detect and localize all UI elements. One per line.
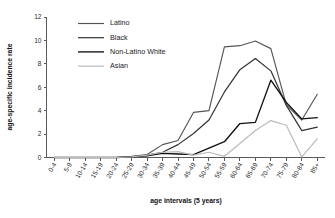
x-tick-label: 55-59 [213, 161, 228, 179]
series-lines [54, 41, 317, 158]
x-tick-label: 35-39 [151, 161, 166, 179]
y-tick-group: 024681012 [34, 13, 46, 161]
x-tick-label: 70-74 [259, 161, 274, 179]
legend-label-latino: Latino [110, 18, 130, 27]
x-tick-label: 75-79 [275, 161, 290, 179]
y-tick-label: 6 [38, 84, 42, 91]
legend-label-asian: Asian [110, 61, 128, 70]
y-tick-label: 0 [38, 154, 42, 161]
y-tick-label: 4 [38, 107, 42, 114]
chart-figure: 024681012 age-specific incidence rate 0-… [0, 0, 335, 218]
incidence-rate-line-chart: 024681012 age-specific incidence rate 0-… [0, 0, 335, 218]
series-line-non-latino-white [54, 80, 317, 157]
y-tick-label: 10 [34, 37, 42, 44]
y-axis-title: age-specific incidence rate [6, 43, 14, 130]
legend-label-black: Black [110, 33, 128, 42]
x-tick-label: 5-9 [62, 161, 73, 173]
x-axis: 0-45-910-1415-1920-2425-2930-3435-3940-4… [47, 158, 326, 206]
x-tick-label: 30-34 [136, 161, 151, 179]
series-line-latino [54, 41, 317, 158]
y-tick-label: 2 [38, 130, 42, 137]
x-tick-label: 0-4 [47, 161, 58, 173]
y-axis: 024681012 age-specific incidence rate [6, 13, 47, 161]
x-tick-label: 40-44 [166, 161, 181, 179]
x-axis-title: age intervals (5 years) [150, 197, 221, 205]
chart-legend: LatinoBlackNon-Latino WhiteAsian [78, 18, 166, 70]
x-tick-label: 80-84 [290, 161, 305, 179]
x-tick-label: 50-54 [197, 161, 212, 179]
x-tick-label: 65-69 [244, 161, 259, 179]
x-tick-group: 0-45-910-1415-1920-2425-2930-3435-3940-4… [47, 158, 321, 180]
x-tick-label: 60-64 [228, 161, 243, 179]
y-tick-label: 12 [34, 13, 42, 20]
x-tick-label: 85+ [309, 161, 321, 174]
x-tick-label: 15-19 [89, 161, 104, 179]
y-tick-label: 8 [38, 60, 42, 67]
x-tick-label: 20-24 [105, 161, 120, 179]
legend-label-non-latino-white: Non-Latino White [110, 47, 166, 56]
x-tick-label: 25-29 [120, 161, 135, 179]
x-tick-label: 10-14 [74, 161, 89, 179]
x-tick-label: 45-49 [182, 161, 197, 179]
